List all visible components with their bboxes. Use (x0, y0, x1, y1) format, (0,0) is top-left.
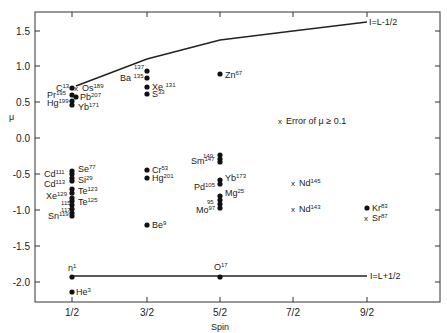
svg-text:Mg25: Mg25 (225, 188, 245, 198)
svg-text:Nd145: Nd145 (299, 178, 321, 188)
svg-text:x: x (291, 205, 295, 214)
points-spin-9-2: Kr83 xSr87 (364, 203, 388, 223)
legend-text: Error of μ ≥ 0.1 (286, 116, 346, 126)
x-axis: 1/2 3/2 5/2 7/2 9/2 (65, 12, 374, 318)
y-axis-label: μ (9, 112, 14, 122)
svg-text:n1: n1 (68, 263, 77, 273)
y-tick-label: -2.0 (13, 277, 31, 288)
svg-text:Hg199: Hg199 (47, 98, 69, 108)
svg-text:Ba 135: Ba 135 (120, 73, 144, 83)
svg-text:Pd105: Pd105 (194, 182, 216, 192)
svg-text:Cd113: Cd113 (44, 179, 66, 189)
x-tick-label: 7/2 (286, 307, 300, 318)
points-spin-1-2: C13 xOs189 Pr195 Pb207 Hg199 Yb171 Cd111… (44, 83, 104, 297)
svg-text:x: x (74, 84, 78, 93)
svg-text:S33: S33 (152, 89, 165, 99)
points-spin-7-2: xNd145 xNd143 (291, 178, 321, 214)
svg-text:Mo97: Mo97 (196, 205, 216, 215)
y-tick-label: 1.0 (16, 61, 30, 72)
x-tick-label: 3/2 (140, 307, 154, 318)
svg-text:Te123: Te123 (78, 186, 98, 196)
svg-text:Pb207: Pb207 (80, 92, 102, 102)
svg-text:Sr87: Sr87 (372, 213, 388, 223)
x-tick-label: 9/2 (360, 307, 374, 318)
points-spin-3-2: 137 Ba 135 Xe 131 S33 Cr53 Hg201 Be9 (120, 64, 176, 230)
svg-text:Cd111: Cd111 (44, 169, 65, 179)
y-tick-label: 1.5 (16, 26, 30, 37)
line-label-lower: I=L+1/2 (370, 271, 401, 281)
legend-marker: x (278, 117, 282, 126)
svg-text:Te125: Te125 (78, 197, 98, 207)
svg-text:Se77: Se77 (78, 164, 96, 174)
svg-text:x: x (291, 179, 295, 188)
line-label-upper: I=L-1/2 (369, 17, 397, 27)
svg-text:Sn119: Sn119 (48, 211, 69, 221)
y-tick-label: -1.5 (13, 241, 31, 252)
svg-text:Hg201: Hg201 (152, 173, 174, 183)
svg-text:Yb173: Yb173 (225, 173, 247, 183)
svg-text:O17: O17 (214, 262, 228, 272)
y-tick-label: 0.0 (16, 133, 30, 144)
svg-text:Si29: Si29 (78, 175, 93, 185)
x-axis-label: Spin (211, 322, 229, 332)
legend: x Error of μ ≥ 0.1 (278, 116, 346, 126)
plot-frame (35, 12, 440, 302)
y-axis: 1.5 1.0 0.5 0.0 -0.5 -1.0 -1.5 -2.0 (13, 26, 440, 288)
chart: 1.5 1.0 0.5 0.0 -0.5 -1.0 -1.5 -2.0 μ 1/… (0, 0, 447, 333)
svg-text:Zn67: Zn67 (225, 70, 243, 80)
points-spin-5-2: Zn67 149 Sm147 Yb173 Pd105 Mg25 95 Mo97 … (191, 70, 247, 280)
x-tick-label: 5/2 (213, 307, 227, 318)
svg-text:137: 137 (134, 64, 145, 70)
y-tick-label: 0.5 (16, 97, 30, 108)
svg-text:Yb171: Yb171 (78, 102, 100, 112)
svg-text:Be9: Be9 (152, 220, 167, 230)
y-tick-label: -0.5 (13, 169, 31, 180)
svg-text:Nd143: Nd143 (299, 204, 321, 214)
svg-text:x: x (364, 214, 368, 223)
y-tick-label: -1.0 (13, 205, 31, 216)
svg-text:Sm147: Sm147 (191, 156, 215, 166)
svg-text:Kr83: Kr83 (372, 203, 388, 213)
svg-text:He3: He3 (76, 287, 92, 297)
x-tick-label: 1/2 (65, 307, 79, 318)
